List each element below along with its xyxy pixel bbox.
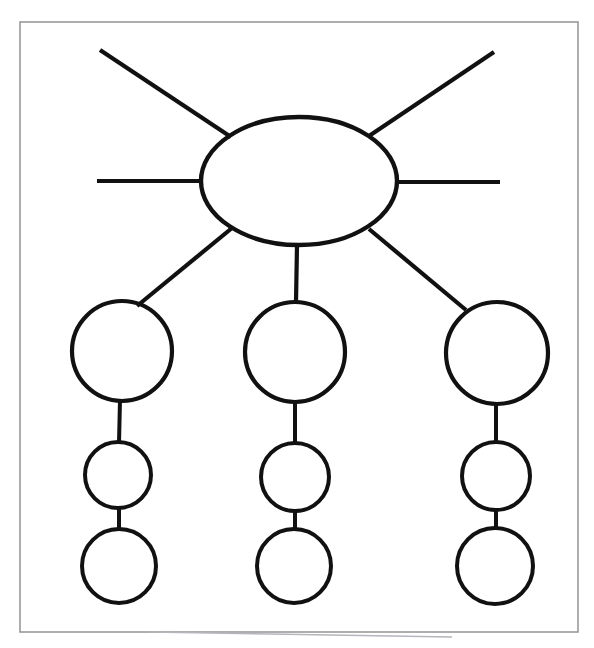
graphic-organizer-canvas bbox=[0, 0, 594, 648]
diagram-page bbox=[0, 0, 594, 648]
branch-center-to-center-primary bbox=[296, 245, 297, 302]
connector-left-primary-to-secondary bbox=[119, 400, 120, 443]
page-background bbox=[0, 0, 594, 648]
